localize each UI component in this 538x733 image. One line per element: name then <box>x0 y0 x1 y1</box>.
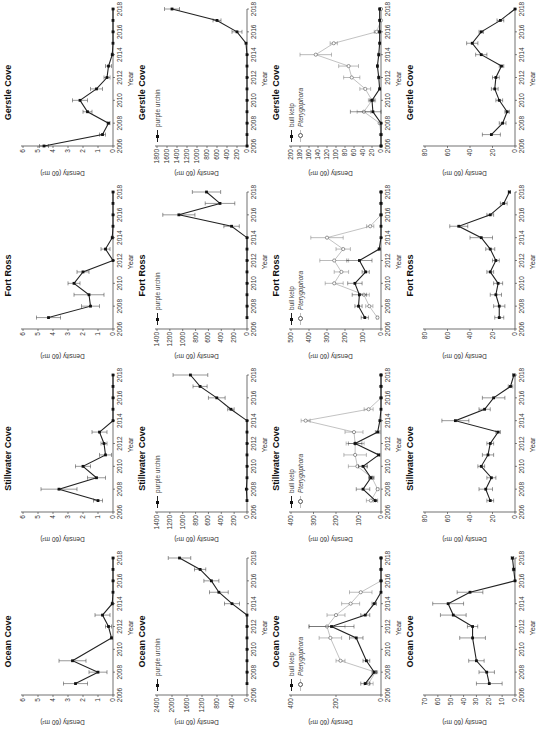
series-line <box>59 375 113 501</box>
x-tick-label: 2012 <box>116 436 123 451</box>
data-point <box>485 671 488 674</box>
data-point <box>246 145 249 148</box>
y-tick-label: 2 <box>79 515 86 519</box>
x-tick-label: 2014 <box>518 47 525 62</box>
data-point <box>199 568 202 571</box>
x-tick-label: 2016 <box>250 207 257 222</box>
data-point <box>246 431 249 434</box>
y-tick-label: 0 <box>109 515 116 519</box>
x-tick-label: 2014 <box>116 596 123 611</box>
data-point <box>246 419 249 422</box>
data-point <box>199 385 202 388</box>
data-point <box>246 53 249 56</box>
x-tick-label: 2010 <box>116 642 123 657</box>
data-point <box>231 602 234 605</box>
y-tick-label: 400 <box>305 332 312 343</box>
data-point <box>246 248 249 251</box>
data-point <box>471 637 474 640</box>
x-tick-label: 2008 <box>518 482 525 497</box>
y-tick-label: 4 <box>49 698 56 702</box>
data-point <box>112 8 115 11</box>
y-tick-label: 1200 <box>166 515 173 530</box>
data-point <box>246 648 249 651</box>
data-point <box>230 225 233 228</box>
data-point <box>178 557 181 560</box>
data-point <box>246 282 249 285</box>
data-point <box>502 202 505 205</box>
legend: purple urchin <box>153 455 162 508</box>
y-tick-label: 5 <box>34 149 41 153</box>
x-tick-label: 2008 <box>384 482 391 497</box>
data-point <box>378 248 381 251</box>
filled-square-marker-icon <box>291 496 292 508</box>
x-tick-label: 2008 <box>384 665 391 680</box>
legend: bull kelpPterygophora <box>287 637 305 691</box>
data-point <box>354 282 357 285</box>
data-point <box>490 476 493 479</box>
data-point <box>304 419 307 422</box>
y-tick-label: 3 <box>64 149 71 153</box>
data-point <box>490 133 493 136</box>
y-tick-label: 0 <box>377 332 384 336</box>
x-tick-label: 2014 <box>116 230 123 245</box>
data-point <box>376 431 379 434</box>
x-tick-label: 2018 <box>116 184 123 199</box>
chart-plot: 0204060802006200820102012201420162018 <box>403 184 537 367</box>
y-tick-label: 160 <box>305 149 312 160</box>
x-axis-label: Year <box>394 187 403 337</box>
legend: bull kelpPterygophora <box>287 88 305 142</box>
data-point <box>112 191 115 194</box>
y-tick-label: 400 <box>217 515 224 526</box>
y-tick-label: 200 <box>341 332 348 343</box>
x-tick-label: 2006 <box>250 504 257 519</box>
y-tick-label: 30 <box>472 698 479 706</box>
x-tick-label: 2016 <box>384 573 391 588</box>
data-point <box>454 419 457 422</box>
data-point <box>112 557 115 560</box>
data-point <box>246 76 249 79</box>
legend-label: bull kelp <box>288 652 295 676</box>
x-tick-label: 2010 <box>250 459 257 474</box>
y-tick-label: 80 <box>341 149 348 157</box>
open-circle-marker-icon <box>300 130 301 142</box>
legend: bull kelpPterygophora <box>287 271 305 325</box>
y-tick-label: 1200 <box>183 149 190 164</box>
data-point <box>333 282 336 285</box>
filled-square-marker-icon <box>157 130 158 142</box>
series-line <box>472 9 515 135</box>
data-point <box>380 396 383 399</box>
data-point <box>245 42 248 45</box>
x-tick-label: 2014 <box>116 47 123 62</box>
data-point <box>246 316 249 319</box>
y-tick-label: 2 <box>79 149 86 153</box>
x-axis-label: Year <box>394 370 403 520</box>
legend-entry: purple urchin <box>153 638 162 691</box>
y-tick-label: 60 <box>350 149 357 157</box>
legend-label: bull kelp <box>288 286 295 310</box>
x-tick-label: 2016 <box>518 24 525 39</box>
y-tick-label: 200 <box>230 515 237 526</box>
x-tick-label: 2016 <box>250 390 257 405</box>
legend-label: purple urchin <box>154 89 161 127</box>
data-point <box>82 465 85 468</box>
x-axis-label: Year <box>528 4 537 154</box>
data-point <box>246 614 249 617</box>
x-tick-label: 2014 <box>384 47 391 62</box>
legend: purple urchin <box>153 272 162 325</box>
y-tick-label: 40 <box>466 332 473 340</box>
data-point <box>314 53 317 56</box>
x-tick-label: 2008 <box>250 665 257 680</box>
y-tick-label: 2 <box>79 698 86 702</box>
x-tick-label: 2014 <box>384 596 391 611</box>
x-tick-label: 2012 <box>250 70 257 85</box>
chart-panel: Ocean Cove020040020062008201020122014201… <box>269 550 403 733</box>
series-line <box>190 375 247 501</box>
y-tick-label: 60 <box>444 332 451 340</box>
data-point <box>492 396 495 399</box>
data-point <box>95 88 98 91</box>
x-tick-label: 2012 <box>116 619 123 634</box>
x-tick-label: 2016 <box>116 390 123 405</box>
y-tick-label: 40 <box>359 149 366 157</box>
data-point <box>112 385 115 388</box>
y-tick-label: 5 <box>34 332 41 336</box>
